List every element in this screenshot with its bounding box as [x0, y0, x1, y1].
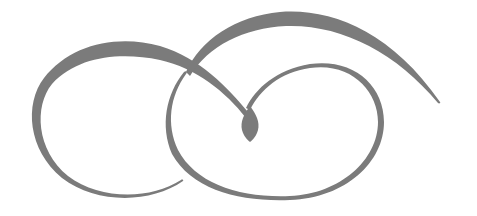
flourish-canvas: [0, 0, 477, 216]
left-loop-stroke: [32, 41, 248, 198]
right-loop-stroke: [166, 63, 384, 200]
swirl-flourish-graphic: [0, 0, 477, 216]
